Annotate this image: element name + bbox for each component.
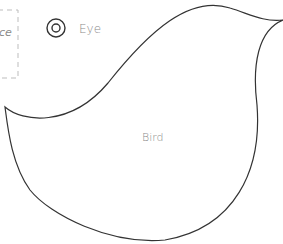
bird-shape[interactable]: Bird [5,5,283,240]
diagram-canvas: ce Eye Bird [0,0,283,244]
partial-box-label: ce [0,26,12,39]
partial-shape-box[interactable]: ce [0,10,18,78]
eye-legend[interactable]: Eye [47,19,101,37]
dashed-border [0,10,18,78]
eye-label: Eye [79,22,101,36]
bird-label: Bird [142,131,164,144]
eye-icon-outer [47,19,65,37]
eye-icon-inner [52,24,60,32]
bird-outline [5,5,283,240]
